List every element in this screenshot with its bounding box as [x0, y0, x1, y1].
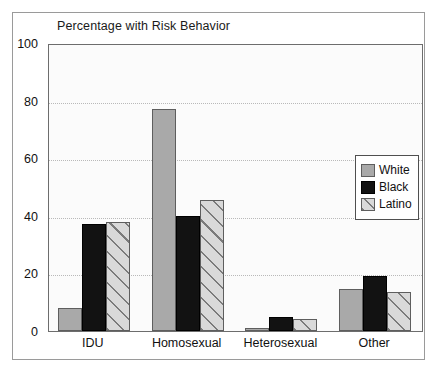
bar-black-homosexual	[176, 216, 200, 331]
swatch-black-icon	[361, 181, 375, 194]
y-tick-label: 80	[0, 95, 38, 108]
legend-label: Black	[379, 181, 408, 194]
bar-black-idu	[82, 224, 106, 331]
y-tick-label: 100	[0, 38, 38, 51]
y-tick-label: 60	[0, 153, 38, 166]
bar-white-heterosexual	[245, 328, 269, 331]
chart-legend: WhiteBlackLatino	[355, 155, 419, 220]
legend-label: Latino	[379, 198, 412, 211]
legend-item-black[interactable]: Black	[361, 180, 413, 195]
y-tick-label: 0	[0, 326, 38, 339]
y-tick-label: 20	[0, 268, 38, 281]
y-tick-label: 40	[0, 211, 38, 224]
x-axis-labels: IDUHomosexualHeterosexualOther	[48, 334, 423, 358]
x-tick-label: Heterosexual	[244, 336, 318, 350]
legend-label: White	[379, 164, 410, 177]
bar-latino-heterosexual	[293, 319, 317, 331]
legend-item-latino[interactable]: Latino	[361, 197, 413, 212]
bar-black-other	[363, 276, 387, 331]
chart-screenshot: Percentage with Risk Behavior 0204060801…	[0, 0, 440, 373]
x-tick-label: Other	[358, 336, 389, 350]
bar-black-heterosexual	[269, 317, 293, 331]
x-tick-label: IDU	[82, 336, 104, 350]
legend-item-white[interactable]: White	[361, 163, 413, 178]
y-axis-labels: 020406080100	[0, 44, 44, 332]
bar-latino-homosexual	[200, 200, 224, 331]
bar-white-other	[339, 289, 363, 331]
swatch-latino-hatched-icon	[361, 198, 375, 211]
bar-latino-idu	[106, 222, 130, 331]
x-tick-label: Homosexual	[152, 336, 221, 350]
bar-white-idu	[58, 308, 82, 331]
chart-title: Percentage with Risk Behavior	[57, 19, 230, 33]
bar-latino-other	[387, 292, 411, 331]
swatch-white-icon	[361, 164, 375, 177]
bar-white-homosexual	[152, 109, 176, 331]
